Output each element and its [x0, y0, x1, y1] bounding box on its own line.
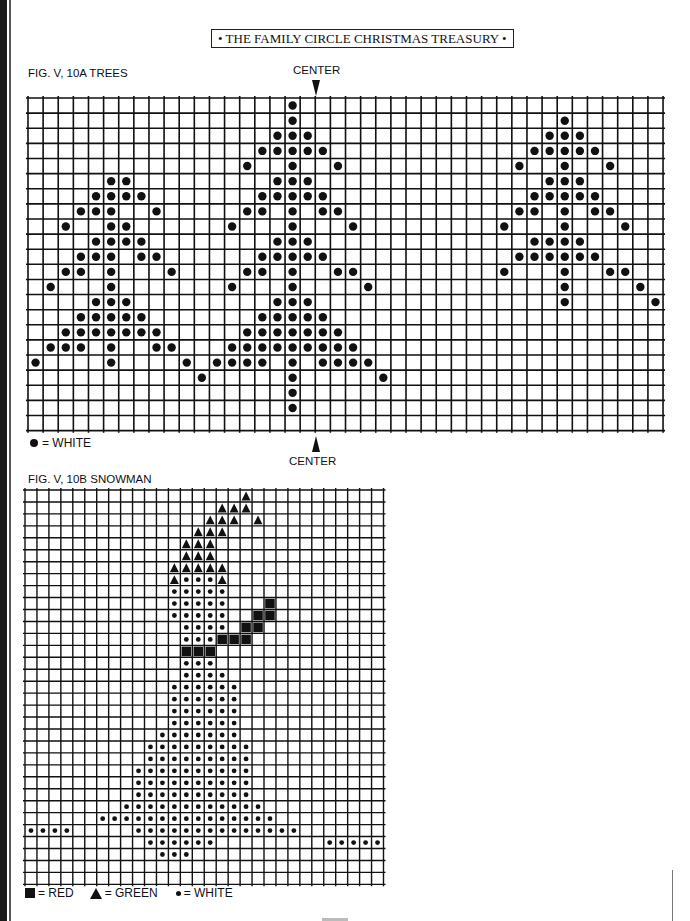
center-arrow-up-icon	[312, 436, 320, 452]
fig-10a-label: FIG. V, 10A TREES	[28, 67, 128, 79]
legend-red-label: = RED	[38, 886, 74, 900]
legend-white-label-2: = WHITE	[184, 886, 233, 900]
white-dot-small-icon	[176, 891, 181, 896]
center-label-bottom: CENTER	[289, 455, 336, 467]
snowman-chart-grid	[25, 490, 384, 884]
book-spine-edge-inner	[9, 0, 11, 921]
snowman-legend: = RED = GREEN = WHITE	[25, 886, 233, 900]
center-label-top: CENTER	[293, 64, 340, 76]
page-edge-line	[672, 870, 673, 921]
trees-legend: = WHITE	[30, 436, 91, 450]
trees-chart-grid	[28, 98, 663, 431]
book-spine-edge	[0, 0, 7, 921]
legend-green-label: = GREEN	[105, 886, 158, 900]
legend-white-label: = WHITE	[42, 436, 91, 450]
center-arrow-down-icon	[312, 80, 320, 96]
white-dot-icon	[30, 439, 38, 447]
running-header: • THE FAMILY CIRCLE CHRISTMAS TREASURY •	[211, 29, 514, 48]
green-triangle-icon	[90, 888, 102, 899]
fig-10b-label: FIG. V, 10B SNOWMAN	[28, 473, 152, 485]
red-square-icon	[25, 888, 35, 898]
